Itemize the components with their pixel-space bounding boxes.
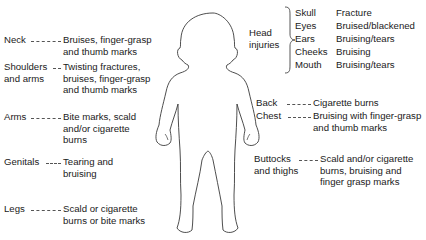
head-row-skull: SkullFracture: [295, 7, 372, 19]
leader-line-genitals: [46, 163, 61, 164]
region-label-line1: Shoulders: [4, 61, 47, 73]
leader-line-buttocks: [299, 160, 318, 161]
head-injury: Bruising/tears: [336, 59, 395, 70]
region-label-line2: and thighs: [254, 165, 298, 177]
injury-text-legs: Scald or cigarette burns or bite marks: [63, 203, 153, 226]
region-label-line1: Buttocks: [254, 153, 298, 165]
head-injury: Bruised/blackened: [336, 20, 415, 31]
head-row-ears: EarsBruising/tears: [295, 33, 395, 45]
head-injury: Bruising: [336, 46, 371, 57]
leader-line-shoulders: [53, 68, 61, 69]
head-part: Skull: [295, 7, 336, 19]
region-label-back: Back: [256, 97, 277, 109]
injury-text-genitals: Tearing and bruising: [63, 156, 133, 179]
region-label-shoulders: Shoulders and arms: [4, 61, 47, 84]
head-injuries-label: Head injuries: [249, 27, 279, 50]
region-label-chest: Chest: [256, 110, 281, 122]
head-row-mouth: MouthBruising/tears: [295, 59, 395, 71]
head-label-line1: Head: [249, 27, 279, 39]
region-label-genitals: Genitals: [4, 156, 39, 168]
region-label-neck: Neck: [4, 34, 26, 46]
region-label-buttocks: Buttocks and thighs: [254, 153, 298, 176]
head-part: Ears: [295, 33, 336, 45]
head-injury: Fracture: [336, 7, 372, 18]
injury-text-shoulders: Twisting fractures, bruises, finger-gras…: [63, 61, 155, 96]
head-part: Cheeks: [295, 46, 336, 58]
region-label-legs: Legs: [4, 203, 25, 215]
region-label-arms: Arms: [4, 111, 26, 123]
leader-line-arms: [31, 118, 61, 119]
head-part: Eyes: [295, 20, 336, 32]
injury-text-buttocks: Scald and/or cigarette burns, bruising a…: [320, 153, 424, 188]
head-row-cheeks: CheeksBruising: [295, 46, 371, 58]
injury-text-arms: Bite marks, scald and/or cigarette burns: [63, 111, 153, 146]
head-part: Mouth: [295, 59, 336, 71]
injury-text-back: Cigarette burns: [313, 97, 423, 109]
leader-line-neck: [31, 41, 61, 42]
head-label-line2: injuries: [249, 39, 279, 51]
region-label-line2: and arms: [4, 73, 47, 85]
leader-line-legs: [31, 210, 61, 211]
leader-line-back: [287, 104, 311, 105]
injury-text-neck: Bruises, finger-grasp and thumb marks: [63, 34, 159, 57]
head-row-eyes: EyesBruised/blackened: [295, 20, 415, 32]
injury-text-chest: Bruising with finger-grasp and thumb mar…: [313, 110, 425, 133]
leader-line-chest: [288, 117, 311, 118]
head-injury: Bruising/tears: [336, 33, 395, 44]
